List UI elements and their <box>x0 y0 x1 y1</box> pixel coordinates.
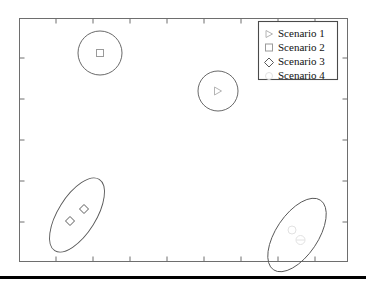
figure-canvas: Scenario 1 Scenario 2 Scenario 3 Scenari… <box>0 0 366 289</box>
legend-label-scenario-4: Scenario 4 <box>278 69 325 81</box>
scatter-figure: Scenario 1 Scenario 2 Scenario 3 Scenari… <box>0 0 366 289</box>
legend[interactable]: Scenario 1 Scenario 2 Scenario 3 Scenari… <box>259 22 338 82</box>
legend-label-scenario-2: Scenario 2 <box>278 41 325 53</box>
legend-label-scenario-3: Scenario 3 <box>278 55 325 67</box>
legend-label-scenario-1: Scenario 1 <box>278 27 325 39</box>
